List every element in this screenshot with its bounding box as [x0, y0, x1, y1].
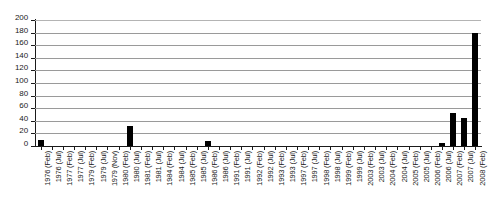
x-tick-label: 1979 (Feb): [88, 151, 96, 186]
x-tick-mark: [409, 146, 410, 150]
x-tick-mark: [386, 146, 387, 150]
bar-slot: [102, 20, 113, 146]
bar-slot: [459, 20, 470, 146]
bar-slot: [269, 20, 280, 146]
x-tick-label: 2003 (Feb): [367, 151, 375, 186]
x-tick-mark: [297, 146, 298, 150]
x-tick-label: 1986 (Feb): [211, 151, 219, 186]
bar-slot: [147, 20, 158, 146]
bar-slot: [403, 20, 414, 146]
x-tick-label: 1979 (Nov): [111, 151, 119, 186]
x-tick-label: 1993 (Feb): [278, 151, 286, 186]
y-tick-label: 20: [19, 127, 28, 135]
x-tick-label: 2004 (Jul): [401, 151, 409, 182]
bar-slot: [57, 20, 68, 146]
y-tick-label: 180: [15, 27, 28, 35]
x-tick-mark: [475, 146, 476, 150]
x-tick-mark: [96, 146, 97, 150]
x-tick-label: 1980 (Jul): [133, 151, 141, 182]
x-tick-label: 1997 (Jul): [311, 151, 319, 182]
bar-slot: [135, 20, 146, 146]
x-tick-label: 2005 (Jul): [423, 151, 431, 182]
x-tick-label: 1984 (Feb): [166, 151, 174, 186]
x-tick-mark: [52, 146, 53, 150]
x-tick-mark: [420, 146, 421, 150]
bar-slot: [213, 20, 224, 146]
bar-slot: [247, 20, 258, 146]
x-tick-mark: [174, 146, 175, 150]
x-tick-mark: [442, 146, 443, 150]
bar-slot: [414, 20, 425, 146]
x-tick-label: 2008 (Feb): [479, 151, 487, 186]
bar-slot: [448, 20, 459, 146]
bar[interactable]: [461, 118, 467, 146]
y-tick-label: 120: [15, 64, 28, 72]
x-tick-label: 1977 (Jul): [77, 151, 85, 182]
bar-slot: [291, 20, 302, 146]
x-tick-mark: [286, 146, 287, 150]
x-tick-mark: [353, 146, 354, 150]
x-tick-label: 1991 (Jul): [244, 151, 252, 182]
y-tick-label: 140: [15, 52, 28, 60]
x-tick-label: 1985 (Feb): [189, 151, 197, 186]
x-tick-mark: [241, 146, 242, 150]
y-tick-label: 160: [15, 39, 28, 47]
x-tick-label: 1976 (Jul): [55, 151, 63, 182]
y-tick-label: 60: [19, 102, 28, 110]
x-tick-label: 2006 (Feb): [434, 151, 442, 186]
bar-slot: [303, 20, 314, 146]
x-tick-mark: [330, 146, 331, 150]
x-axis-labels: 1976 (Feb)1976 (Jul)1977 (Feb)1977 (Jul)…: [35, 151, 481, 210]
plot-area: [35, 20, 481, 146]
x-tick-mark: [163, 146, 164, 150]
bar-chart: 200180160140120100806040200 1976 (Feb)19…: [0, 0, 490, 210]
bar-slot: [370, 20, 381, 146]
x-tick-mark: [63, 146, 64, 150]
bar-slot: [280, 20, 291, 146]
x-tick-mark: [107, 146, 108, 150]
x-tick-label: 1991 (Feb): [233, 151, 241, 186]
x-tick-mark: [464, 146, 465, 150]
bar-slot: [80, 20, 91, 146]
bar-slot: [191, 20, 202, 146]
bar-slot: [314, 20, 325, 146]
x-tick-label: 1984 (Jul): [178, 151, 186, 182]
bar-slot: [225, 20, 236, 146]
y-tick-label: 200: [15, 14, 28, 22]
x-tick-label: 1986 (Jul): [222, 151, 230, 182]
x-tick-label: 1981 (Feb): [144, 151, 152, 186]
x-tick-label: 2007 (Jul): [467, 151, 475, 182]
bar[interactable]: [127, 126, 133, 146]
x-tick-mark: [275, 146, 276, 150]
x-tick-label: 2005 (Feb): [412, 151, 420, 186]
bar-series: [35, 20, 481, 146]
x-tick-mark: [219, 146, 220, 150]
bar-slot: [46, 20, 57, 146]
x-tick-label: 1985 (Jul): [200, 151, 208, 182]
x-tick-label: 1999 (Feb): [345, 151, 353, 186]
x-tick-label: 1998 (Jul): [334, 151, 342, 182]
x-tick-mark: [85, 146, 86, 150]
bar[interactable]: [450, 113, 456, 146]
x-tick-mark: [186, 146, 187, 150]
bar-slot: [180, 20, 191, 146]
bar-slot: [35, 20, 46, 146]
bar-slot: [169, 20, 180, 146]
x-tick-label: 1980 (Feb): [122, 151, 130, 186]
x-tick-label: 1993 (Jul): [289, 151, 297, 182]
x-tick-mark: [41, 146, 42, 150]
bar-slot: [392, 20, 403, 146]
x-tick-mark: [319, 146, 320, 150]
y-tick-label: 100: [15, 77, 28, 85]
x-tick-label: 2006 (Jul): [445, 151, 453, 182]
x-tick-label: 1976 (Feb): [44, 151, 52, 186]
bar-slot: [113, 20, 124, 146]
x-tick-mark: [252, 146, 253, 150]
x-tick-mark: [342, 146, 343, 150]
bar[interactable]: [472, 33, 478, 146]
x-tick-label: 1981 (Jul): [155, 151, 163, 182]
y-axis-ticks: 200180160140120100806040200: [0, 20, 35, 146]
y-tick-label: 0: [24, 140, 28, 148]
bar-slot: [347, 20, 358, 146]
y-tick-label: 40: [19, 115, 28, 123]
